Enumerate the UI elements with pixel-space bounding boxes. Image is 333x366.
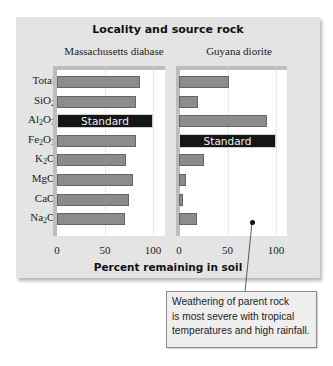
category-labels: TotalSiO2Al2O3Fe2O3K2OMgOCaONa2O — [16, 17, 55, 247]
gridline — [153, 66, 154, 236]
bar-cao — [179, 194, 183, 206]
gridline — [105, 66, 106, 236]
gridline — [228, 66, 229, 236]
x-tick-label: 100 — [268, 244, 285, 256]
series-title-massachusetts: Massachusetts diabase — [49, 45, 179, 57]
category-label-mgo: MgO — [32, 172, 55, 184]
x-tick-label: 0 — [54, 244, 60, 256]
x-tick-label: 0 — [176, 244, 182, 256]
category-label-total: Total — [33, 74, 55, 86]
bar-k2o — [57, 154, 126, 166]
bar-standard: Standard — [179, 134, 276, 148]
category-label-al2o3: Al2O3 — [28, 113, 55, 127]
bar-mgo — [179, 174, 186, 186]
annotation-callout: Weathering of parent rock is most severe… — [166, 291, 317, 348]
category-label-sio2: SiO2 — [34, 94, 55, 108]
callout-line: Weathering of parent rock — [172, 295, 312, 310]
series-title-guyana: Guyana diorite — [174, 45, 304, 57]
x-tick-label: 50 — [222, 244, 233, 256]
chart-title: Locality and source rock — [16, 23, 320, 36]
x-tick-label: 50 — [100, 244, 111, 256]
callout-line: is most severe with tropical — [172, 310, 312, 325]
bar-mgo — [57, 174, 133, 186]
bar-fe2o3 — [57, 135, 136, 147]
gridline — [276, 66, 277, 236]
bar-na2o — [57, 213, 125, 225]
bar-cao — [57, 194, 129, 206]
plot-massachusetts-diabase: Standard — [53, 66, 165, 236]
bar-k2o — [179, 154, 204, 166]
bar-na2o — [179, 213, 197, 225]
category-label-cao: CaO — [35, 192, 55, 204]
callout-line: temperatures and high rainfall. — [172, 324, 312, 339]
chart-panel: Locality and source rock Massachusetts d… — [16, 17, 320, 278]
bar-sio2 — [57, 96, 136, 108]
bar-standard: Standard — [57, 114, 153, 128]
category-label-k2o: K2O — [35, 152, 55, 166]
bar-al2o3 — [179, 115, 267, 127]
category-label-na2o: Na2O — [30, 211, 55, 225]
x-axis-label: Percent remaining in soil — [16, 261, 320, 273]
bar-total — [57, 76, 140, 88]
category-label-fe2o3: Fe2O3 — [28, 133, 55, 147]
x-tick-label: 100 — [145, 244, 162, 256]
plot-guyana-diorite: Standard — [176, 66, 287, 236]
bar-total — [179, 76, 229, 88]
annotation-dot — [250, 220, 255, 225]
bar-sio2 — [179, 96, 198, 108]
